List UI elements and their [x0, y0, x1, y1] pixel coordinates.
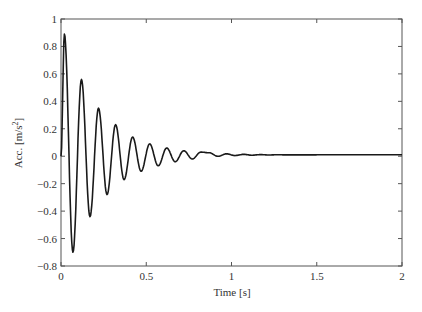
y-tick-label: −0.6	[37, 233, 57, 245]
x-tick-label: 1.5	[310, 270, 324, 282]
x-axis-label: Time [s]	[213, 286, 250, 298]
y-tick-label: −0.2	[37, 178, 57, 190]
y-tick-label: 1	[52, 13, 58, 25]
y-tick-label: −0.8	[37, 260, 57, 272]
y-tick-label: 0.4	[43, 95, 57, 107]
y-tick-label: 0.2	[43, 123, 57, 135]
x-tick-label: 2	[399, 270, 405, 282]
x-tick-label: 0	[58, 270, 64, 282]
y-tick-label: −0.4	[37, 205, 57, 217]
y-tick-label: 0.8	[43, 40, 57, 52]
x-tick-label: 0.5	[139, 270, 153, 282]
acceleration-chart: 00.511.52 −0.8−0.6−0.4−0.200.20.40.60.81…	[0, 0, 422, 312]
y-tick-label: 0	[52, 150, 58, 162]
y-tick-label: 0.6	[43, 68, 57, 80]
x-tick-label: 1	[229, 270, 235, 282]
